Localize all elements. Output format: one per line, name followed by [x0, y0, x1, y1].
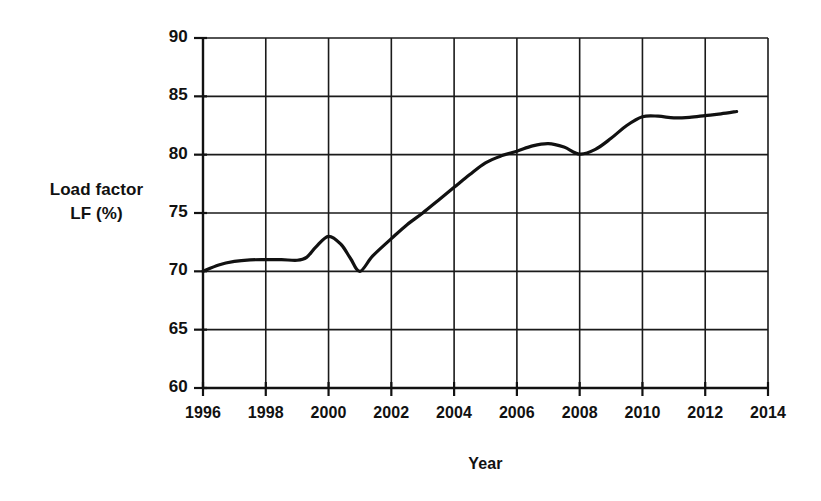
x-tick-label: 2000: [294, 404, 364, 422]
y-axis-title-line1: Load factor: [14, 178, 179, 202]
chart-background: [0, 0, 821, 501]
x-tick-label: 1996: [168, 404, 238, 422]
y-tick-label: 65: [142, 319, 188, 339]
y-tick-label: 60: [142, 377, 188, 397]
line-chart-plot: [0, 0, 821, 501]
x-tick-label: 1998: [231, 404, 301, 422]
x-tick-label: 2006: [482, 404, 552, 422]
y-tick-label: 85: [142, 85, 188, 105]
x-tick-label: 2010: [607, 404, 677, 422]
x-axis-title: Year: [203, 455, 768, 473]
y-tick-label: 90: [142, 27, 188, 47]
x-tick-label: 2008: [545, 404, 615, 422]
y-tick-label: 80: [142, 144, 188, 164]
x-tick-label: 2012: [670, 404, 740, 422]
chart-figure: Load factor LF (%) Year 90858075706560 1…: [0, 0, 821, 501]
x-tick-label: 2002: [356, 404, 426, 422]
x-tick-label: 2014: [733, 404, 803, 422]
y-tick-label: 70: [142, 260, 188, 280]
y-tick-label: 75: [142, 202, 188, 222]
x-tick-label: 2004: [419, 404, 489, 422]
